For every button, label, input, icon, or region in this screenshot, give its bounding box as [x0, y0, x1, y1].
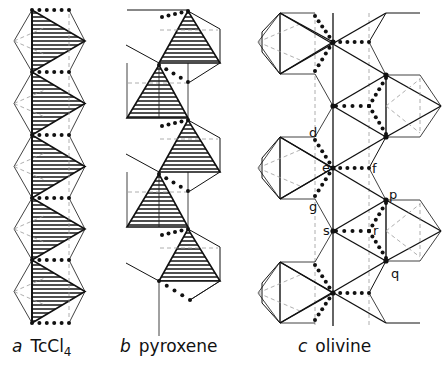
tccl4-chain [14, 8, 85, 325]
caption-letter: c [298, 336, 307, 356]
caption-subscript: 4 [64, 345, 72, 359]
point-label-g: g [309, 199, 317, 214]
point-label-r: r [373, 223, 379, 238]
caption-text: TcCl [30, 336, 63, 356]
point-label-f: f [372, 161, 377, 176]
caption-c: colivine [298, 336, 371, 356]
point-label-d: d [309, 125, 317, 140]
caption-letter: b [120, 336, 131, 356]
polyhedra-chain-figure: defgpsrq aTcCl4 bpyroxene colivine [0, 0, 446, 375]
figure-drawing: defgpsrq [0, 0, 446, 375]
caption-a: aTcCl4 [12, 336, 72, 359]
point-label-s: s [323, 223, 330, 238]
point-label-p: p [389, 187, 397, 202]
point-label-q: q [391, 266, 399, 281]
caption-text: pyroxene [139, 336, 218, 356]
caption-text: olivine [315, 336, 371, 356]
caption-letter: a [12, 336, 22, 356]
pyroxene-chain [126, 9, 220, 336]
caption-b: bpyroxene [120, 336, 217, 356]
point-label-e: e [322, 160, 330, 175]
olivine-structure [258, 13, 441, 326]
